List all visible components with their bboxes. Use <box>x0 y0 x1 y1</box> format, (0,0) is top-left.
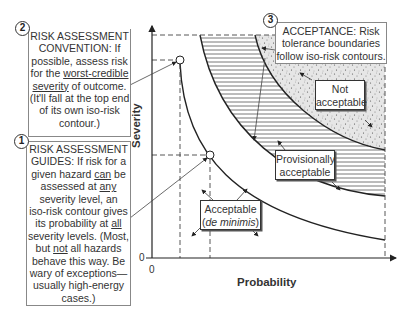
y-axis-title: Severity <box>130 103 142 148</box>
callout-number-3: 3 <box>263 13 278 28</box>
y-origin-tick: 0 <box>139 252 145 263</box>
label-provisionally-acceptable: Provisionallyacceptable <box>275 150 335 180</box>
label-acceptable-de-minimis: Acceptable(de minimis) <box>200 200 261 230</box>
label-not-acceptable: Notacceptable <box>315 80 365 110</box>
callout-number-1: 1 <box>14 134 29 149</box>
x-axis-title: Probability <box>237 276 296 288</box>
callout-risk-assessment-guides: RISK ASSESSMENT GUIDES: If risk for a gi… <box>26 141 131 306</box>
callout-text: RISK ASSESSMENT GUIDES: If risk for a gi… <box>27 143 130 304</box>
callout-risk-assessment-convention: RISK ASSESSMENT CONVENTION: If possible,… <box>28 29 131 137</box>
callout-text: RISK ASSESSMENT CONVENTION: If possible,… <box>29 30 130 129</box>
x-origin-tick: 0 <box>149 264 155 275</box>
assessed-point <box>206 151 214 159</box>
worst-credible-point <box>176 56 184 64</box>
callout-number-2: 2 <box>15 21 30 36</box>
callout-acceptance: ACCEPTANCE: Risk tolerance boundaries fo… <box>275 22 387 64</box>
